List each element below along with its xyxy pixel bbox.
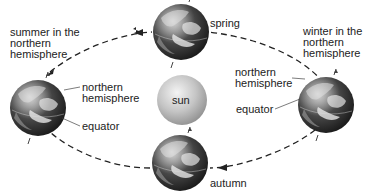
seasons-diagram: summer in the northern hemisphere spring… [0, 0, 367, 193]
callout-line [64, 87, 80, 90]
callout-line [292, 78, 305, 79]
callout-line [275, 99, 300, 109]
earth-globe-winter [298, 69, 354, 141]
orbit-arrow-icon [218, 164, 227, 171]
earth-globe-spring [153, 0, 209, 68]
autumn-label: autumn [210, 178, 247, 189]
spring-label: spring [210, 18, 240, 29]
summer-label: summer in the northern hemisphere [10, 27, 80, 60]
winter-label: winter in the northern hemisphere [303, 26, 362, 59]
right-equator-label: equator [236, 104, 273, 115]
earth-globe-summer [10, 72, 66, 144]
right-northern-hemisphere-label: northern hemisphere [235, 67, 292, 89]
sun-label: sun [172, 95, 190, 106]
orbit-arrow-icon [134, 29, 143, 36]
earth-globe-autumn [152, 127, 208, 193]
callout-line [62, 118, 80, 126]
left-equator-label: equator [82, 121, 119, 132]
left-northern-hemisphere-label: northern hemisphere [82, 82, 139, 104]
